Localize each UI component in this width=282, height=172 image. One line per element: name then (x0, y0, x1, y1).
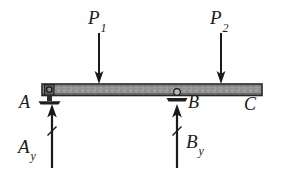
beam-free-body-diagram: P1 P2 A B C Ay By (0, 0, 282, 172)
pin-support-base-plate (39, 101, 61, 104)
load-label-p2-base: P (210, 7, 222, 28)
beam (42, 84, 262, 96)
reaction-label-by-subscript: y (199, 144, 204, 158)
load-label-p1-subscript: 1 (101, 21, 107, 35)
reaction-label-by-base: B (186, 131, 198, 152)
load-arrow-p1 (95, 33, 104, 84)
point-label-b: B (188, 93, 199, 111)
load-label-p2: P2 (210, 8, 228, 30)
point-label-b-text: B (188, 92, 199, 112)
point-label-a-text: A (19, 92, 30, 112)
load-label-p1-base: P (88, 7, 100, 28)
point-label-c-text: C (244, 94, 256, 114)
point-label-c: C (244, 95, 256, 113)
reaction-label-ay-subscript: y (31, 149, 36, 163)
reaction-label-ay-base: A (18, 136, 30, 157)
reaction-arrow-ay (47, 104, 57, 168)
diagram-canvas (0, 0, 282, 172)
load-arrow-p2 (217, 33, 226, 84)
pin-support-stem (47, 95, 52, 101)
reaction-arrow-by (172, 104, 182, 168)
pin-support-hinge-icon (47, 87, 52, 92)
roller-support-base-plate (167, 98, 188, 101)
reaction-label-by: By (186, 132, 203, 154)
roller-support-wheel-icon (174, 89, 181, 96)
reaction-label-ay: Ay (18, 137, 35, 159)
point-label-a: A (19, 93, 30, 111)
load-label-p1: P1 (88, 8, 106, 30)
load-label-p2-subscript: 2 (223, 21, 229, 35)
